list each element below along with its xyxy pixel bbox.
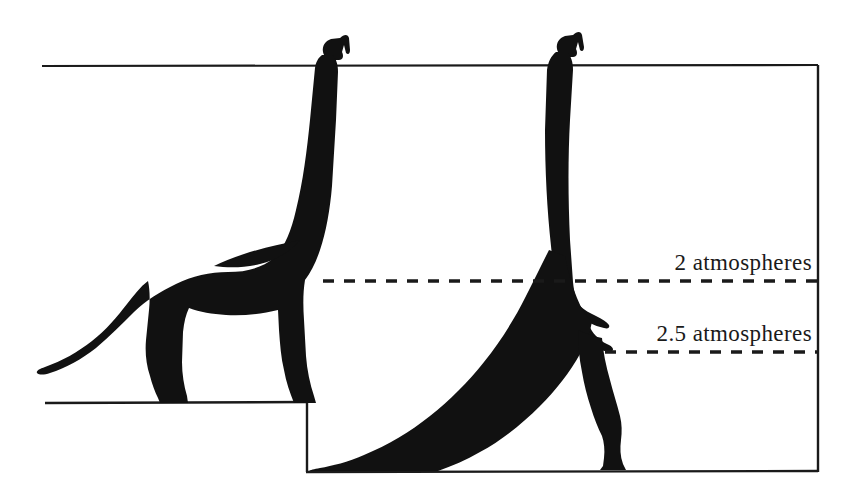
- pressure-label-2-atmospheres: 2 atmospheres: [600, 250, 812, 276]
- diagram-canvas: [0, 0, 854, 498]
- standing-sauropod-silhouette: [37, 35, 350, 403]
- rearing-sauropod-silhouette: [309, 32, 626, 471]
- lower-ground-line: [306, 471, 818, 472]
- pressure-label-2.5-atmospheres: 2.5 atmospheres: [590, 321, 812, 347]
- top-rule-line: [42, 65, 818, 66]
- pressure-diagram-figure: 2 atmospheres 2.5 atmospheres: [0, 0, 854, 498]
